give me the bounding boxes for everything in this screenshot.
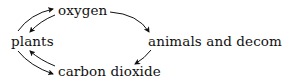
arrow-co2-to-plants [30,51,55,66]
node-plants: plants [11,33,54,49]
arrow-oxygen-to-plants [30,15,55,32]
cycle-diagram: oxygen plants animals and decomposers ca… [0,0,282,83]
node-oxygen: oxygen [58,2,107,18]
arrow-oxygen-to-animals [110,12,149,32]
node-carbon-dioxide: carbon dioxide [58,63,161,79]
node-animals-and-decomposers: animals and decomposers [148,33,282,49]
arrow-plants-to-oxygen [18,9,53,31]
arrow-animals-to-co2 [135,50,151,64]
